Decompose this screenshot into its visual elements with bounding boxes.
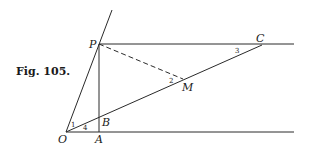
- label-angle-3: 3: [235, 47, 239, 55]
- label-point-p: P: [88, 38, 97, 51]
- segment-oc: [66, 45, 262, 132]
- label-point-b: B: [101, 116, 110, 129]
- geometry-figure: Fig. 105. P C M B O A 1 2 3 4: [0, 0, 309, 153]
- label-angle-4: 4: [83, 124, 88, 132]
- label-point-m: M: [181, 81, 194, 94]
- line-o-ray: [66, 10, 112, 132]
- label-point-o: O: [58, 133, 67, 146]
- label-point-a: A: [94, 133, 103, 146]
- segment-pm-dashed: [99, 44, 183, 79]
- label-point-c: C: [256, 32, 265, 45]
- figure-caption: Fig. 105.: [16, 65, 70, 78]
- label-angle-1: 1: [71, 121, 75, 129]
- label-angle-2: 2: [169, 77, 173, 85]
